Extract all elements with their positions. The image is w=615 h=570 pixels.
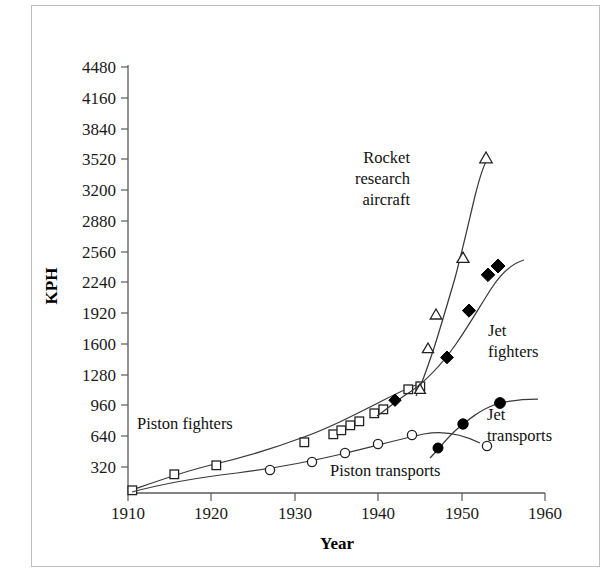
data-point: [128, 486, 137, 495]
series-label-jet-fighters-line1: Jet: [488, 321, 507, 340]
data-point: [300, 438, 309, 447]
series-label-rocket-line1: Rocket: [363, 148, 410, 167]
y-tick-label: 1280: [82, 366, 116, 385]
x-tick-marks: [128, 493, 545, 501]
series-jet-fighters: Jet fighters: [377, 259, 538, 416]
data-point: [462, 304, 475, 317]
data-point: [265, 465, 274, 474]
series-label-piston-transports: Piston transports: [330, 461, 440, 480]
x-tick-labels: 1910 1920 1930 1940 1950 1960: [111, 504, 562, 523]
series-label-piston-fighters: Piston fighters: [137, 414, 233, 433]
series-label-rocket-line2: research: [355, 169, 411, 188]
series-rocket-research-aircraft: Rocket research aircraft: [355, 148, 492, 396]
y-tick-label: 4480: [82, 58, 116, 77]
y-tick-label: 2880: [82, 212, 116, 231]
data-point: [329, 430, 338, 439]
aircraft-speed-line-chart: 4480 4160 3840 3520 3200 2880 2560 2240 …: [32, 6, 599, 566]
y-tick-label: 1600: [82, 335, 116, 354]
chart-page: 4480 4160 3840 3520 3200 2880 2560 2240 …: [0, 0, 615, 570]
data-point: [212, 461, 221, 470]
data-point: [458, 419, 468, 429]
data-point: [407, 430, 416, 439]
x-tick-label: 1920: [194, 504, 228, 523]
y-axis-title: KPH: [42, 268, 61, 305]
y-tick-label: 320: [91, 458, 117, 477]
data-point: [491, 259, 505, 273]
data-point: [404, 385, 413, 394]
x-tick-label: 1950: [445, 504, 479, 523]
data-point: [433, 443, 443, 453]
data-point: [340, 448, 349, 457]
y-tick-label: 2240: [82, 273, 116, 292]
x-axis-title: Year: [320, 534, 354, 553]
series-label-jet-transports-line2: transports: [487, 426, 552, 445]
y-tick-label: 960: [91, 396, 117, 415]
y-tick-marks: [121, 67, 128, 467]
figure-frame: 4480 4160 3840 3520 3200 2880 2560 2240 …: [31, 5, 600, 567]
y-tick-label: 2560: [82, 243, 116, 262]
series-label-rocket-line3: aircraft: [362, 190, 410, 209]
x-tick-label: 1930: [278, 504, 312, 523]
x-tick-label: 1910: [111, 504, 145, 523]
series-label-jet-fighters-line2: fighters: [488, 342, 538, 361]
data-point: [355, 417, 364, 426]
x-tick-label: 1940: [361, 504, 395, 523]
series-piston-transports: Piston transports: [132, 430, 492, 492]
data-point: [481, 268, 495, 282]
data-point: [170, 470, 179, 479]
data-point: [430, 309, 442, 319]
series-label-jet-transports-line1: Jet: [487, 405, 506, 424]
trend-line-rocket-research-aircraft: [416, 158, 488, 396]
data-point: [346, 421, 355, 430]
y-tick-label: 4160: [82, 89, 116, 108]
x-tick-label: 1960: [528, 504, 562, 523]
y-tick-label: 3200: [82, 181, 116, 200]
y-tick-label: 640: [91, 427, 117, 446]
data-point: [337, 426, 346, 435]
data-point: [480, 152, 492, 163]
y-tick-labels: 4480 4160 3840 3520 3200 2880 2560 2240 …: [82, 58, 116, 477]
y-tick-label: 3840: [82, 120, 116, 139]
data-point: [373, 439, 382, 448]
y-tick-label: 1920: [82, 304, 116, 323]
data-point: [457, 252, 469, 262]
data-point: [422, 343, 433, 353]
y-tick-label: 3520: [82, 150, 116, 169]
data-point: [307, 457, 316, 466]
